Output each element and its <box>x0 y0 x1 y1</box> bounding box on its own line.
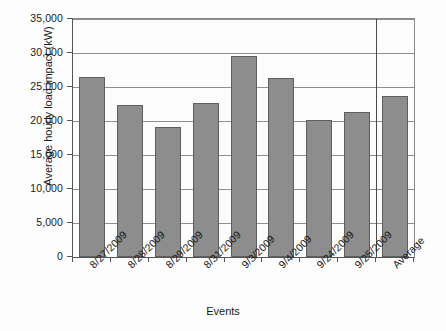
chart-figure: Average hourly load impact (kW) 05,00010… <box>0 0 446 331</box>
y-axis-tick: 30,000 <box>0 46 72 58</box>
y-axis-tick: 0 <box>0 250 72 262</box>
y-axis-tick-label: 5,000 <box>36 216 67 228</box>
y-axis-tick: 20,000 <box>0 114 72 126</box>
y-axis-tick-label: 10,000 <box>30 182 67 194</box>
average-column-divider <box>376 19 377 257</box>
y-axis-tick: 15,000 <box>0 148 72 160</box>
y-axis-tick-label: 30,000 <box>30 46 67 58</box>
y-axis: 05,00010,00015,00020,00025,00030,00035,0… <box>0 0 72 331</box>
y-axis-tick-label: 20,000 <box>30 114 67 126</box>
plot-area <box>72 18 415 258</box>
y-axis-tick: 5,000 <box>0 216 72 228</box>
bar <box>268 78 294 257</box>
y-axis-tick-label: 35,000 <box>30 12 67 24</box>
bar-series <box>73 19 414 257</box>
y-axis-tick-label: 0 <box>57 250 67 262</box>
bar <box>79 77 105 257</box>
y-axis-tick: 35,000 <box>0 12 72 24</box>
y-axis-tick-label: 25,000 <box>30 80 67 92</box>
y-axis-tick-label: 15,000 <box>30 148 67 160</box>
x-axis-title: Events <box>0 305 446 317</box>
y-axis-tick: 25,000 <box>0 80 72 92</box>
y-axis-tick: 10,000 <box>0 182 72 194</box>
